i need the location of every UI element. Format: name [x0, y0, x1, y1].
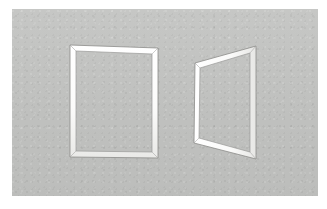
right-frame-band: [194, 46, 256, 159]
left-frame-outer-outline: [70, 45, 158, 158]
left-frame-band: [70, 45, 158, 158]
left-frame-inner-outline: [76, 51, 152, 152]
right-trapezoidal-frame: [194, 46, 256, 159]
illustration-scene: [0, 0, 327, 209]
right-frame-inner-outline: [199, 53, 250, 152]
frames-vector-layer: [0, 0, 327, 209]
left-frame-mitre-lines: [70, 45, 158, 158]
left-rectangular-frame: [70, 45, 158, 158]
